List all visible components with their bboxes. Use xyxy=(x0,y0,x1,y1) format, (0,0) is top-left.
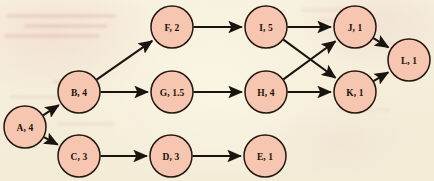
node-label-c: C, 3 xyxy=(71,152,88,162)
node-i[interactable]: I, 5 xyxy=(245,6,287,48)
diagram-canvas: A, 4B, 4C, 3D, 3E, 1F, 2G, 1.5H, 4I, 5J,… xyxy=(0,0,434,181)
edge-h-to-j xyxy=(283,41,335,79)
node-label-d: D, 3 xyxy=(163,152,180,162)
node-label-a: A, 4 xyxy=(17,123,34,133)
node-l[interactable]: L, 1 xyxy=(388,39,430,81)
node-label-g: G, 1.5 xyxy=(160,88,185,98)
node-label-k: K, 1 xyxy=(346,88,363,98)
edge-i-to-k xyxy=(283,40,335,78)
node-b[interactable]: B, 4 xyxy=(58,71,100,113)
node-a[interactable]: A, 4 xyxy=(4,106,46,148)
node-label-b: B, 4 xyxy=(71,88,87,98)
edge-b-to-f xyxy=(97,41,153,80)
project-network-graph: A, 4B, 4C, 3D, 3E, 1F, 2G, 1.5H, 4I, 5J,… xyxy=(0,0,434,181)
node-label-e: E, 1 xyxy=(257,152,273,162)
node-f[interactable]: F, 2 xyxy=(151,6,193,48)
node-c[interactable]: C, 3 xyxy=(58,135,100,177)
node-e[interactable]: E, 1 xyxy=(244,135,286,177)
node-j[interactable]: J, 1 xyxy=(334,6,376,48)
edge-j-to-l xyxy=(373,38,388,47)
node-label-f: F, 2 xyxy=(165,23,180,33)
node-label-h: H, 4 xyxy=(257,88,274,98)
node-label-j: J, 1 xyxy=(348,23,363,33)
node-d[interactable]: D, 3 xyxy=(150,135,192,177)
edge-a-to-c xyxy=(44,137,58,144)
node-label-i: I, 5 xyxy=(259,23,273,33)
node-h[interactable]: H, 4 xyxy=(245,71,287,113)
node-k[interactable]: K, 1 xyxy=(334,71,376,113)
edge-k-to-l xyxy=(373,72,388,81)
edge-a-to-b xyxy=(43,105,59,115)
node-g[interactable]: G, 1.5 xyxy=(151,71,193,113)
node-label-l: L, 1 xyxy=(401,56,417,66)
